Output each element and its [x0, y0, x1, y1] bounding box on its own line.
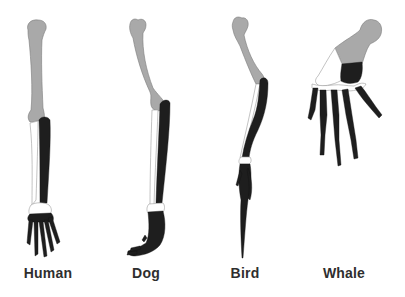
label-whale: Whale [304, 265, 384, 281]
bird-humerus [232, 17, 264, 84]
whale-flipper-digits [308, 86, 382, 166]
bird-carpals [239, 157, 251, 164]
bird-hand [236, 164, 252, 258]
whale-limb [308, 19, 382, 166]
dog-limb [127, 19, 170, 256]
whale-ulna [341, 62, 363, 83]
bird-limb [232, 17, 268, 258]
label-human: Human [8, 265, 88, 281]
human-ulna [39, 117, 50, 204]
human-limb [27, 20, 60, 257]
homologous-limbs-diagram: Human Dog Bird Whale [0, 0, 405, 297]
dog-paw [127, 211, 165, 256]
label-dog: Dog [106, 265, 186, 281]
dog-humerus [130, 19, 164, 111]
label-bird: Bird [205, 265, 285, 281]
limbs-illustration [0, 0, 405, 297]
human-radius [30, 121, 38, 205]
human-humerus [28, 20, 47, 122]
human-hand [27, 213, 60, 257]
whale-humerus [335, 19, 382, 64]
